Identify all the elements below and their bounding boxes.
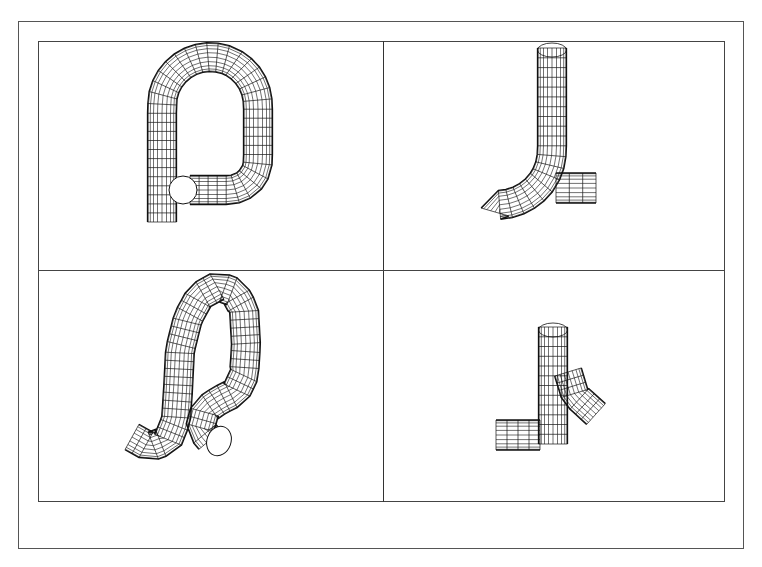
pipe-end-cap [169, 176, 197, 204]
view-bottom-right [496, 323, 605, 450]
drawing-canvas [0, 0, 762, 567]
view-top-right [481, 43, 596, 219]
pipe-end-cap [203, 423, 236, 459]
view-top-left [148, 43, 273, 222]
view-bottom-left [125, 274, 260, 459]
